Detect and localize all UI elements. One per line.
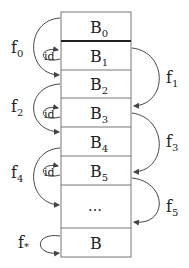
- id-label-b3: id: [44, 108, 55, 121]
- label-f4: f4: [11, 163, 23, 184]
- label-fstar: f*: [18, 233, 29, 252]
- block-diagram: B0 B1 B2 B3 B4 B5 … B id id id f0 f2 f4 …: [0, 0, 189, 268]
- arrow-f0: [34, 18, 60, 75]
- label-f0: f0: [11, 38, 23, 59]
- block-b: B: [90, 234, 102, 253]
- loop-fstar: [40, 236, 60, 254]
- label-f3: f3: [166, 132, 178, 153]
- arrow-f1: [132, 48, 159, 106]
- arrow-f5: [132, 178, 159, 222]
- block-ellipsis: …: [88, 198, 102, 214]
- label-f5: f5: [166, 197, 178, 218]
- id-label-b5: id: [44, 166, 55, 179]
- label-f1: f1: [166, 68, 178, 89]
- id-label-b1: id: [44, 50, 55, 63]
- label-f2: f2: [11, 97, 23, 118]
- arrow-f3: [132, 113, 159, 172]
